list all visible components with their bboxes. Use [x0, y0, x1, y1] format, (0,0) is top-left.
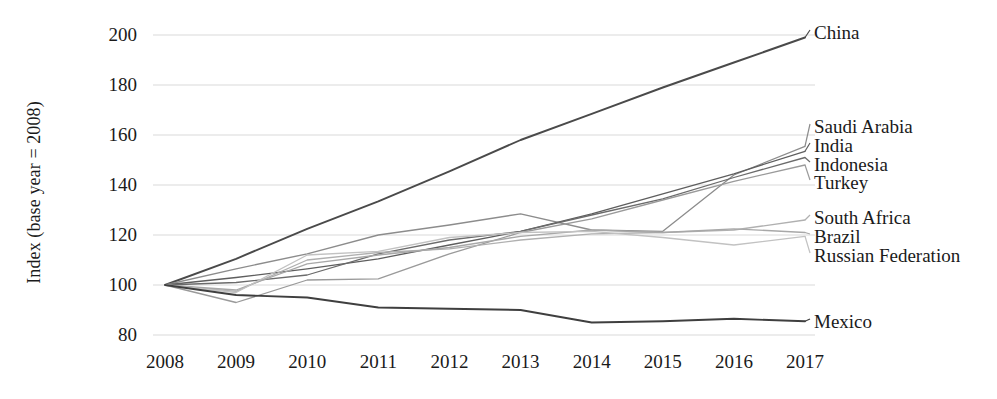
series-lines — [165, 30, 810, 323]
gridlines — [153, 35, 815, 335]
series-line-russian-federation — [165, 231, 805, 292]
series-label-saudi-arabia: Saudi Arabia — [814, 117, 913, 136]
series-leader-line — [805, 215, 810, 220]
series-leader-line — [805, 165, 810, 180]
series-line-mexico — [165, 285, 805, 323]
series-leader-line — [805, 233, 810, 235]
series-label-mexico: Mexico — [814, 312, 872, 331]
line-chart: Index (base year = 2008) 200180160140120… — [0, 0, 997, 399]
series-leader-line — [805, 236, 810, 253]
series-line-india — [165, 151, 805, 285]
series-line-saudi-arabia — [165, 146, 805, 285]
series-leader-line — [805, 30, 810, 38]
series-leader-line — [805, 319, 810, 321]
series-label-turkey: Turkey — [814, 173, 868, 192]
plot-area — [0, 0, 997, 399]
series-label-india: India — [814, 136, 853, 155]
series-label-south-africa: South Africa — [814, 208, 911, 227]
series-line-china — [165, 38, 805, 286]
series-label-russian-federation: Russian Federation — [814, 246, 960, 265]
series-label-brazil: Brazil — [814, 227, 860, 246]
series-leader-line — [805, 158, 810, 163]
series-line-indonesia — [165, 158, 805, 286]
series-label-china: China — [814, 23, 859, 42]
